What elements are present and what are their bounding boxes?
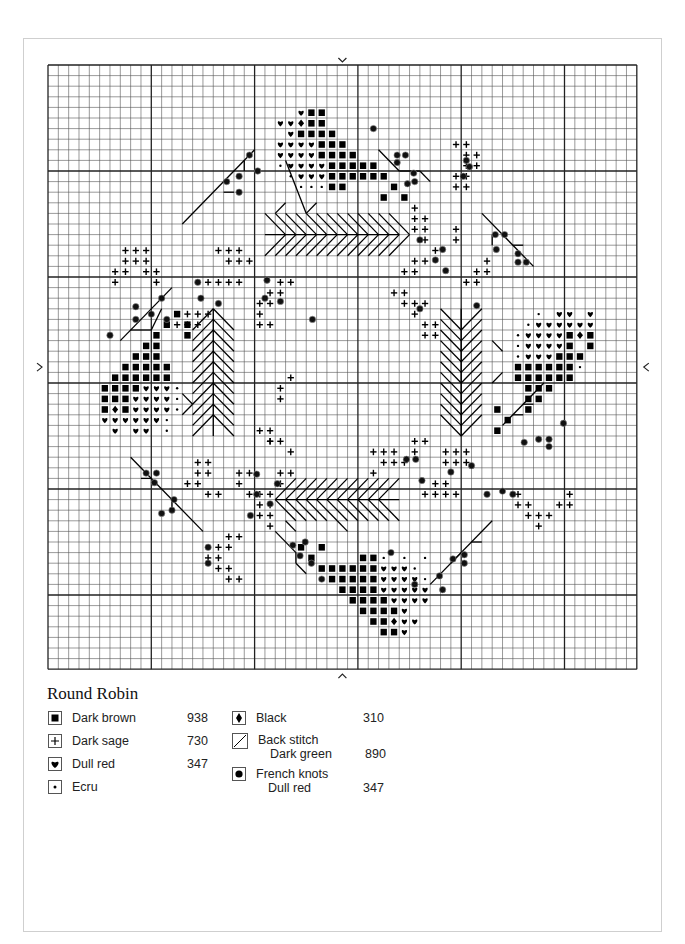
square-stitch: [381, 608, 387, 615]
plus-icon: [48, 734, 62, 748]
heart-stitch: [133, 397, 138, 402]
square-stitch: [122, 374, 128, 381]
heart-stitch: [567, 312, 572, 317]
french-knot: [394, 152, 400, 158]
heart-stitch: [288, 121, 293, 126]
square-stitch: [567, 364, 573, 371]
heart-stitch: [319, 164, 324, 169]
heart-stitch: [526, 354, 531, 359]
dot-stitch: [424, 557, 426, 559]
square-stitch: [153, 343, 159, 350]
french-knot: [297, 553, 303, 559]
french-knot: [436, 573, 442, 579]
square-stitch: [525, 374, 531, 381]
heart-stitch: [402, 588, 407, 593]
square-stitch: [112, 385, 118, 392]
heart-stitch: [278, 153, 283, 158]
legend-item-code: 347: [187, 757, 208, 771]
french-knots: [107, 125, 567, 593]
heart-stitch: [288, 132, 293, 137]
french-knot: [432, 257, 438, 263]
legend-item-label: Dark sage: [72, 734, 187, 748]
legend-item-plus: Dark sage730: [48, 734, 208, 748]
square-stitch: [360, 608, 366, 615]
square-stitch: [143, 364, 149, 371]
heart-stitch: [536, 344, 541, 349]
french-knot: [546, 443, 552, 449]
heart-stitch: [278, 121, 283, 126]
square-stitch: [370, 565, 376, 572]
heart-stitch: [112, 429, 117, 434]
french-knot: [236, 173, 242, 179]
square-stitch: [319, 131, 325, 138]
square-stitch: [360, 162, 366, 169]
square-stitch: [525, 406, 531, 413]
heart-stitch: [402, 619, 407, 624]
square-stitch: [360, 576, 366, 583]
french-knot: [413, 456, 419, 462]
square-stitch: [143, 374, 149, 381]
french-knot: [151, 479, 157, 485]
heart-stitch: [381, 577, 386, 582]
square-stitch: [350, 597, 356, 604]
backstitch-segment: [337, 521, 347, 532]
branch: [120, 288, 172, 341]
legend-item-code: 347: [363, 767, 384, 795]
french-knot: [198, 295, 204, 301]
french-knot: [262, 295, 268, 301]
legend-item-heart: Dull red347: [48, 757, 208, 771]
legend-item-diamond: Black310: [232, 711, 384, 725]
square-stitch: [494, 406, 500, 413]
french-knot: [253, 491, 259, 497]
french-knot: [412, 178, 418, 184]
heart-stitch: [536, 354, 541, 359]
square-stitch: [567, 353, 573, 360]
heart-stitch: [309, 174, 314, 179]
french-knot: [521, 439, 527, 445]
french-knot: [560, 420, 566, 426]
french-knot: [535, 436, 541, 442]
square-stitch: [370, 173, 376, 180]
legend-item-label: Dull red: [72, 757, 187, 771]
heart-stitch: [298, 142, 303, 147]
backstitch-segment: [286, 521, 296, 532]
heart-stitch: [143, 407, 148, 412]
heart-stitch: [557, 344, 562, 349]
heart-stitch: [557, 323, 562, 328]
legend-item-label: Back stitchDark green: [258, 733, 365, 761]
dot-stitch: [166, 419, 168, 421]
french-knot: [107, 332, 113, 338]
dot-stitch: [517, 355, 519, 357]
square-stitch: [494, 427, 500, 434]
heart-stitch: [546, 333, 551, 338]
branch: [131, 457, 203, 531]
heart-stitch: [154, 407, 159, 412]
french-knot: [309, 316, 315, 322]
square-stitch: [339, 162, 345, 169]
center-marker-right-icon: [644, 363, 649, 371]
french-knot: [205, 544, 211, 550]
heart-stitch: [546, 354, 551, 359]
legend-item-dot: Ecru: [48, 780, 187, 794]
french-knot: [277, 298, 283, 304]
diamond-stitch: [112, 406, 118, 414]
backstitch-segment: [275, 203, 285, 214]
dot-stitch: [414, 567, 416, 569]
center-marker-top-icon: [338, 58, 346, 62]
french-knot: [236, 189, 242, 195]
square-stitch: [360, 597, 366, 604]
legend-item-knot: French knotsDull red347: [232, 767, 384, 795]
diamond-stitch: [577, 332, 583, 340]
heart-stitch: [526, 333, 531, 338]
french-knot: [319, 576, 325, 582]
heart-stitch: [546, 344, 551, 349]
french-knot: [510, 491, 516, 497]
square-stitch: [184, 332, 190, 339]
square-stitch: [360, 586, 366, 593]
square-stitch: [350, 162, 356, 169]
dot-stitch: [537, 313, 539, 315]
dot-icon: [48, 780, 62, 794]
square-stitch: [329, 184, 335, 191]
dot-stitch: [321, 186, 323, 188]
french-knot: [417, 306, 423, 312]
